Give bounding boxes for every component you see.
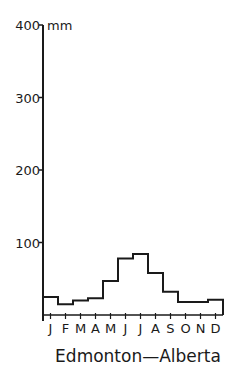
y-tick-label: 100 — [15, 236, 40, 251]
month-label: M — [105, 321, 116, 336]
month-label: J — [48, 321, 53, 336]
x-axis: JFMAMJJASOND — [43, 313, 223, 336]
y-tick-label: 200 — [15, 163, 40, 178]
y-axis: 100200300400mm — [15, 18, 72, 321]
month-label: J — [138, 321, 143, 336]
month-label: S — [166, 321, 174, 336]
month-label: M — [75, 321, 86, 336]
y-tick-label: 400 — [15, 18, 40, 33]
y-unit-label: mm — [47, 18, 72, 33]
y-tick-label: 300 — [15, 91, 40, 106]
chart-title: Edmonton—Alberta — [55, 346, 221, 366]
precipitation-chart: 100200300400mm JFMAMJJASOND Edmonton—Alb… — [0, 0, 240, 374]
month-label: A — [91, 321, 100, 336]
month-label: J — [123, 321, 128, 336]
month-label: O — [180, 321, 190, 336]
month-label: N — [196, 321, 206, 336]
precipitation-step-line — [43, 254, 223, 315]
month-label: F — [62, 321, 69, 336]
month-label: D — [210, 321, 220, 336]
month-label: A — [151, 321, 160, 336]
